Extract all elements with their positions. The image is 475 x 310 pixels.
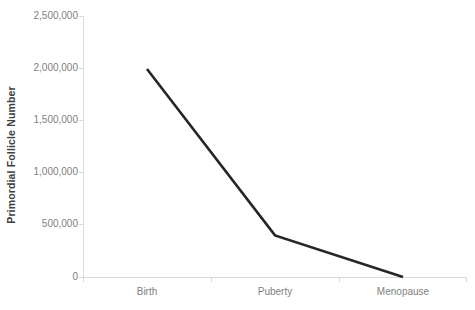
x-tick-label-birth: Birth bbox=[137, 287, 158, 297]
y-axis-ticks bbox=[79, 17, 83, 278]
data-series-line bbox=[147, 69, 403, 277]
line-chart: Primordial Follicle Number 2,500,000 2,0… bbox=[0, 0, 475, 310]
x-tick-label-menopause: Menopause bbox=[377, 287, 429, 297]
plot-area bbox=[0, 0, 475, 310]
x-tick-label-puberty: Puberty bbox=[258, 287, 292, 297]
